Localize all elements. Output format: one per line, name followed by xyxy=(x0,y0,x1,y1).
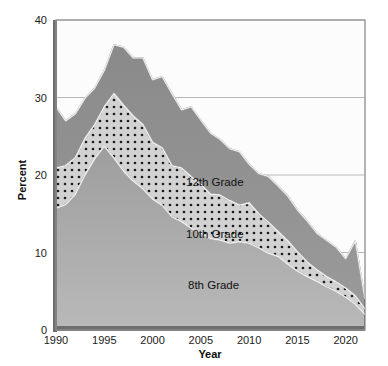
x-tick-label: 2000 xyxy=(140,334,164,346)
x-tick-label: 2005 xyxy=(189,334,213,346)
y-tick-label: 30 xyxy=(35,92,47,104)
x-tick-label: 1995 xyxy=(92,334,116,346)
x-axis-title: Year xyxy=(198,348,222,360)
y-tick-label: 10 xyxy=(35,247,47,259)
series-label-12th-grade: 12th Grade xyxy=(186,176,244,188)
chart-container: 010203040 1990199520002005201020152020 P… xyxy=(0,0,388,366)
series-label-10th-grade: 10th Grade xyxy=(186,228,244,240)
y-tick-label: 20 xyxy=(35,169,47,181)
series-label-8th-grade: 8th Grade xyxy=(188,279,239,291)
y-axis-title: Percent xyxy=(16,159,28,200)
area-chart: 010203040 1990199520002005201020152020 P… xyxy=(0,0,388,366)
x-tick-label: 2020 xyxy=(333,334,357,346)
x-tick-label: 2010 xyxy=(237,334,261,346)
x-tick-label: 1990 xyxy=(44,334,68,346)
x-tick-label: 2015 xyxy=(285,334,309,346)
y-tick-label: 40 xyxy=(35,14,47,26)
